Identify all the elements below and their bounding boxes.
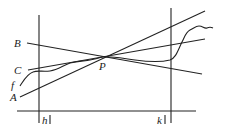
diagram-canvas: B C f A P h k (0, 0, 226, 135)
label-b: B (14, 37, 21, 49)
line-c (28, 39, 205, 70)
line-a (20, 11, 205, 97)
label-f: f (11, 79, 16, 91)
curve-f (20, 26, 213, 86)
line-b (27, 43, 202, 74)
label-a: A (9, 91, 17, 103)
label-c: C (14, 64, 22, 76)
label-k: k (157, 114, 163, 126)
label-p: P (98, 60, 106, 72)
label-h: h (42, 114, 48, 126)
